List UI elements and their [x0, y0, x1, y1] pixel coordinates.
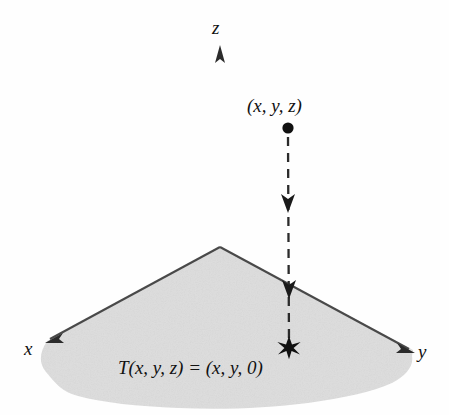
projection-equation-label: T(x, y, z) = (x, y, 0) [118, 357, 263, 379]
figure-canvas [0, 0, 449, 415]
axis-label-z: z [212, 17, 219, 39]
source-point-label: (x, y, z) [247, 95, 302, 117]
projection-figure: z x y (x, y, z) T(x, y, z) = (x, y, 0) [0, 0, 449, 415]
axis-label-x: x [24, 338, 32, 360]
axis-label-y: y [418, 341, 426, 363]
